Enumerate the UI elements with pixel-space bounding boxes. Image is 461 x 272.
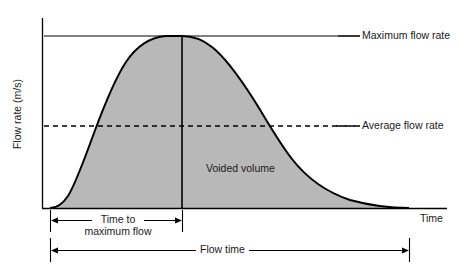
y-axis-label: Flow rate (m/s) (11, 64, 23, 164)
x-axis-label: Time (420, 212, 443, 224)
voided-volume-label: Voided volume (206, 162, 275, 174)
time-to-maximum-flow-label: Time to maximum flow (70, 213, 166, 237)
time-to-maximum-flow-label-line2: maximum flow (70, 225, 166, 237)
time-to-maximum-flow-label-line1: Time to (92, 213, 144, 225)
maximum-flow-rate-label: Maximum flow rate (362, 29, 450, 41)
average-flow-rate-label: Average flow rate (362, 119, 444, 131)
flow-time-label: Flow time (196, 243, 249, 255)
voided-volume-area (50, 36, 409, 208)
uroflowmetry-chart: Flow rate (m/s) Time Maximum flow rate A… (0, 0, 461, 272)
